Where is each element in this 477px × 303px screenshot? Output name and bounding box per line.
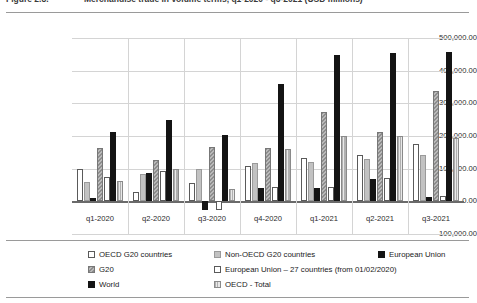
bar-q1-2021-european-union-27-countries-from-01-02-2020 <box>328 187 334 201</box>
bar-q3-2021-world <box>446 52 452 201</box>
title-divider <box>6 12 469 13</box>
bar-q2-2021-oecd-g20-countries <box>357 155 363 202</box>
bar-q4-2020-g20 <box>265 148 271 201</box>
legend-row: G20European Union – 27 countries (from 0… <box>88 265 468 280</box>
chart-legend: OECD G20 countriesNon-OECD G20 countries… <box>88 250 468 295</box>
bar-q1-2020-g20 <box>97 148 103 201</box>
figure-number: Figure 2.8. <box>6 0 49 4</box>
legend-item-non-oecd-g20-countries[interactable]: Non-OECD G20 countries <box>214 250 315 259</box>
x-axis-tick-label-q1-2020: q1-2020 <box>72 214 128 223</box>
legend-swatch-icon <box>214 266 221 273</box>
legend-item-world[interactable]: World <box>88 280 119 289</box>
bar-q3-2020-non-oecd-g20-countries <box>196 169 202 202</box>
bar-q1-2021-european-union <box>314 188 320 201</box>
figure-title: Figure 2.8. Merchandise trade in volume … <box>0 0 477 6</box>
bar-q2-2020-european-union-27-countries-from-01-02-2020 <box>160 171 166 201</box>
bar-q4-2020-world <box>278 84 284 202</box>
legend-label: World <box>99 280 119 289</box>
bar-q2-2020-oecd-g20-countries <box>133 192 139 202</box>
bar-groups <box>72 38 464 234</box>
x-axis-tick-label-q2-2021: q2-2021 <box>352 214 408 223</box>
bar-q1-2021-oecd-g20-countries <box>301 158 307 201</box>
bar-q3-2021-european-union-27-countries-from-01-02-2020 <box>440 196 446 201</box>
bar-q4-2020-european-union <box>258 188 264 201</box>
bar-q2-2020-non-oecd-g20-countries <box>140 174 146 202</box>
bar-q1-2020-european-union-27-countries-from-01-02-2020 <box>104 177 110 202</box>
bar-q1-2021-g20 <box>321 112 327 201</box>
bar-q2-2021-oecd-total <box>397 136 403 201</box>
bar-q2-2021-world <box>390 53 396 201</box>
x-axis-tick-label-q3-2021: q3-2021 <box>408 214 464 223</box>
chart-figure: Figure 2.8. Merchandise trade in volume … <box>0 0 477 303</box>
bar-q3-2020-european-union <box>202 201 208 209</box>
legend-label: OECD - Total <box>225 280 271 289</box>
legend-swatch-icon <box>378 251 385 258</box>
bar-q2-2020-european-union <box>146 173 152 202</box>
bar-q4-2020-oecd-g20-countries <box>245 166 251 201</box>
legend-item-g20[interactable]: G20 <box>88 265 114 274</box>
bar-group-q4-2020 <box>240 38 296 234</box>
legend-row: WorldOECD - Total <box>88 280 468 295</box>
bar-q4-2020-oecd-total <box>285 149 291 201</box>
bar-q3-2020-oecd-g20-countries <box>189 183 195 202</box>
bar-group-q3-2021 <box>408 38 464 234</box>
figure-caption: Merchandise trade in volume terms, q1-20… <box>84 0 363 4</box>
x-axis-tick-label-q1-2021: q1-2021 <box>296 214 352 223</box>
x-axis-tick-label-q4-2020: q4-2020 <box>240 214 296 223</box>
bar-group-q1-2020 <box>72 38 128 234</box>
legend-swatch-icon <box>214 281 221 288</box>
x-axis-tick-label-q3-2020: q3-2020 <box>184 214 240 223</box>
legend-label: G20 <box>99 265 114 274</box>
legend-row: OECD G20 countriesNon-OECD G20 countries… <box>88 250 468 265</box>
bar-q1-2020-european-union <box>90 198 96 201</box>
bar-q3-2020-world <box>222 135 228 201</box>
bar-q2-2021-european-union-27-countries-from-01-02-2020 <box>384 178 390 201</box>
bar-q3-2020-european-union-27-countries-from-01-02-2020 <box>216 201 222 210</box>
bar-q2-2021-g20 <box>377 132 383 202</box>
x-axis-tick-label-q2-2020: q2-2020 <box>128 214 184 223</box>
bar-group-q2-2020 <box>128 38 184 234</box>
legend-swatch-icon <box>88 251 95 258</box>
legend-label: European Union – 27 countries (from 01/0… <box>225 265 397 274</box>
bar-q3-2021-european-union <box>426 197 432 201</box>
bar-q2-2020-g20 <box>153 160 159 201</box>
plot-area <box>72 38 464 234</box>
bar-group-q3-2020 <box>184 38 240 234</box>
bar-q1-2020-world <box>110 132 116 202</box>
bar-q1-2021-non-oecd-g20-countries <box>308 162 314 201</box>
bar-q3-2021-non-oecd-g20-countries <box>420 155 426 202</box>
bar-q3-2020-oecd-total <box>229 189 235 201</box>
bar-q1-2021-oecd-total <box>341 136 347 201</box>
bottom-divider <box>6 297 469 298</box>
bar-q2-2021-european-union <box>370 179 376 201</box>
bar-q3-2020-g20 <box>209 147 215 202</box>
bar-group-q2-2021 <box>352 38 408 234</box>
legend-label: OECD G20 countries <box>99 250 172 259</box>
legend-swatch-icon <box>88 266 95 273</box>
legend-item-oecd-g20-countries[interactable]: OECD G20 countries <box>88 250 172 259</box>
legend-item-european-union[interactable]: European Union <box>378 250 445 259</box>
legend-label: European Union <box>389 250 445 259</box>
legend-item-european-union-27-countries-from-01-02-2020[interactable]: European Union – 27 countries (from 01/0… <box>214 265 397 274</box>
bar-q3-2021-oecd-g20-countries <box>413 144 419 201</box>
bar-q3-2021-g20 <box>433 91 439 201</box>
bar-q3-2021-oecd-total <box>453 138 459 202</box>
legend-divider <box>6 240 469 241</box>
legend-label: Non-OECD G20 countries <box>225 250 315 259</box>
gridline <box>72 234 464 235</box>
legend-swatch-icon <box>88 281 95 288</box>
bar-q1-2020-oecd-total <box>117 181 123 202</box>
bar-q1-2020-oecd-g20-countries <box>77 169 83 202</box>
bar-q2-2020-world <box>166 120 172 202</box>
bar-group-q1-2021 <box>296 38 352 234</box>
bar-q2-2020-oecd-total <box>173 169 179 202</box>
bar-q4-2020-european-union-27-countries-from-01-02-2020 <box>272 187 278 201</box>
bar-q2-2021-non-oecd-g20-countries <box>364 159 370 201</box>
bar-q1-2021-world <box>334 55 340 201</box>
legend-swatch-icon <box>214 251 221 258</box>
bar-q1-2020-non-oecd-g20-countries <box>84 182 90 202</box>
bar-q4-2020-non-oecd-g20-countries <box>252 163 258 201</box>
legend-item-oecd-total[interactable]: OECD - Total <box>214 280 271 289</box>
